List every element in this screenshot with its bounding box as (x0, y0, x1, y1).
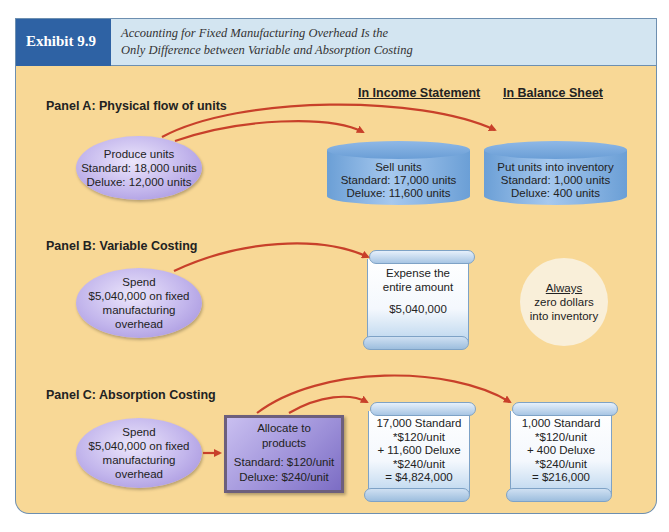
income-line3: + 11,600 Deluxe (368, 444, 470, 458)
absorption-balance-scroll: 1,000 Standard *$120/unit + 400 Deluxe *… (506, 402, 618, 502)
inventory-units-text: Put units into inventory Standard: 1,000… (484, 161, 627, 200)
expense-amount: $5,040,000 (367, 302, 469, 316)
always-line3: into inventory (530, 309, 598, 323)
allocate-deluxe-rate: Deluxe: $240/unit (227, 470, 341, 485)
spend-c-line3: manufacturing (103, 453, 176, 467)
spend-c-line1: Spend (122, 425, 155, 439)
expense-line1: Expense the (367, 266, 469, 280)
allocate-standard-rate: Standard: $120/unit (227, 455, 341, 470)
allocate-line2: products (227, 436, 341, 451)
scroll-bottom-roll (363, 336, 469, 350)
produce-line2: Standard: 18,000 units (81, 161, 197, 175)
inventory-line1: Put units into inventory (484, 161, 627, 174)
balance-line1: 1,000 Standard (510, 417, 612, 431)
income-total: = $4,824,000 (368, 471, 470, 485)
balance-line2: *$120/unit (510, 431, 612, 445)
scroll-bottom-roll (506, 488, 612, 502)
sell-units-text: Sell units Standard: 17,000 units Deluxe… (327, 161, 470, 200)
absorption-balance-text: 1,000 Standard *$120/unit + 400 Deluxe *… (510, 417, 612, 485)
inventory-units-cylinder: Put units into inventory Standard: 1,000… (484, 141, 627, 205)
exhibit-title-line2: Only Difference between Variable and Abs… (121, 42, 413, 59)
balance-line4: *$240/unit (510, 458, 612, 472)
always-line2: zero dollars (534, 295, 593, 309)
spend-b-line2: $5,040,000 on fixed (88, 289, 189, 303)
income-line4: *$240/unit (368, 458, 470, 472)
produce-line1: Produce units (104, 147, 174, 161)
cylinder-top (484, 141, 627, 159)
scroll-top-roll (370, 402, 476, 416)
sell-units-cylinder: Sell units Standard: 17,000 units Deluxe… (327, 141, 470, 205)
exhibit-title: Accounting for Fixed Manufacturing Overh… (121, 25, 413, 59)
inventory-line2: Standard: 1,000 units (484, 174, 627, 187)
spend-b-line4: overhead (115, 317, 163, 331)
sell-line2: Standard: 17,000 units (327, 174, 470, 187)
produce-units-oval: Produce units Standard: 18,000 units Del… (76, 136, 202, 200)
expense-scroll: Expense the entire amount $5,040,000 (363, 250, 475, 350)
zero-inventory-circle: Always zero dollars into inventory (520, 258, 608, 346)
absorption-income-text: 17,000 Standard *$120/unit + 11,600 Delu… (368, 417, 470, 485)
column-balance-sheet: In Balance Sheet (503, 86, 603, 100)
spend-b-line1: Spend (122, 275, 155, 289)
scroll-bottom-roll (364, 488, 470, 502)
panel-b-label: Panel B: Variable Costing (46, 239, 197, 253)
produce-line3: Deluxe: 12,000 units (87, 175, 192, 189)
exhibit-header: Exhibit 9.9 Accounting for Fixed Manufac… (15, 18, 657, 66)
spend-overhead-oval-b: Spend $5,040,000 on fixed manufacturing … (76, 268, 202, 338)
allocate-products-box: Allocate to products Standard: $120/unit… (224, 415, 344, 493)
cylinder-top (327, 141, 470, 159)
exhibit-label: Exhibit 9.9 (16, 19, 111, 67)
expense-line2: entire amount (367, 280, 469, 294)
panel-a-label: Panel A: Physical flow of units (46, 99, 227, 113)
balance-line3: + 400 Deluxe (510, 444, 612, 458)
allocate-line1: Allocate to (227, 421, 341, 436)
panel-c-label: Panel C: Absorption Costing (46, 388, 216, 402)
sell-line3: Deluxe: 11,600 units (327, 187, 470, 200)
exhibit-title-line1: Accounting for Fixed Manufacturing Overh… (121, 25, 413, 42)
balance-total: = $216,000 (510, 471, 612, 485)
spend-c-line2: $5,040,000 on fixed (88, 439, 189, 453)
spend-overhead-oval-c: Spend $5,040,000 on fixed manufacturing … (76, 418, 202, 488)
income-line2: *$120/unit (368, 431, 470, 445)
spend-c-line4: overhead (115, 467, 163, 481)
expense-text: Expense the entire amount $5,040,000 (367, 266, 469, 316)
sell-line1: Sell units (327, 161, 470, 174)
absorption-income-scroll: 17,000 Standard *$120/unit + 11,600 Delu… (364, 402, 476, 502)
scroll-top-roll (369, 250, 475, 264)
always-label: Always (546, 281, 582, 295)
scroll-top-roll (512, 402, 618, 416)
spend-b-line3: manufacturing (103, 303, 176, 317)
inventory-line3: Deluxe: 400 units (484, 187, 627, 200)
column-income-statement: In Income Statement (358, 86, 480, 100)
income-line1: 17,000 Standard (368, 417, 470, 431)
